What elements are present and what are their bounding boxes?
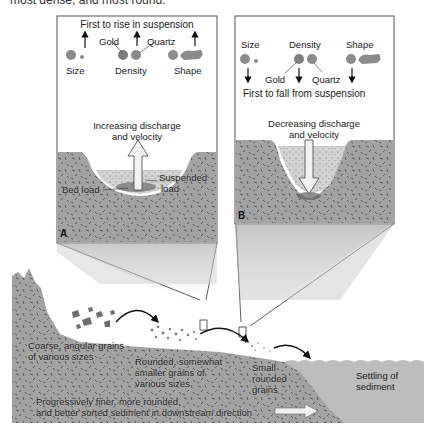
locator-box-a <box>200 320 207 330</box>
panel-a-size-label: Size <box>66 65 84 76</box>
coarse-grains-label-2: of various sizes <box>28 351 93 362</box>
small-grains-label-3: grains <box>252 384 278 395</box>
small-grains-label-2: rounded <box>252 373 287 384</box>
panel-a-letter: A <box>60 228 67 239</box>
panel-a-quartz-label: Quartz <box>147 36 176 47</box>
panel-b-gold-label: Gold <box>265 74 285 85</box>
panel-a-shape-label: Shape <box>174 65 201 76</box>
panel-b-letter: B <box>238 210 245 221</box>
trend-label-2: and better sorted sediment in downstream… <box>36 407 252 418</box>
panel-b-quartz-label: Quartz <box>312 74 341 85</box>
settling-label-1: Settling of <box>356 370 398 381</box>
bed-load-label: Bed load <box>62 184 100 195</box>
panel-b-density-label: Density <box>289 39 321 50</box>
rounded-grains-label-3: various sizes <box>135 378 190 389</box>
trend-label-1: Progressively finer, more rounded, <box>36 396 181 407</box>
rounded-grains-label-1: Rounded, somewhat <box>135 356 222 367</box>
panel-b-title: First to fall from suspension <box>243 88 365 99</box>
coarse-grains-label-1: Coarse, angular grains <box>28 340 124 351</box>
panel-b-flow-label-1: Decreasing discharge <box>254 118 374 129</box>
suspended-load-label-1: Suspended <box>159 172 207 183</box>
panel-a-flow-label-1: Increasing discharge <box>77 120 197 131</box>
panel-b-flow-label-2: and velocity <box>254 129 374 140</box>
settling-label-2: sediment <box>356 381 395 392</box>
small-grains-label-1: Small <box>252 362 276 373</box>
panel-a-gold-label: Gold <box>99 36 119 47</box>
panel-a-title: First to rise in suspension <box>57 19 217 30</box>
rounded-grains-label-2: smaller grains of <box>135 367 205 378</box>
suspended-load-label-2: load <box>161 183 179 194</box>
panel-b-size-label: Size <box>241 39 259 50</box>
panel-a-density-label: Density <box>115 65 147 76</box>
panel-b-shape-label: Shape <box>346 39 373 50</box>
panel-a-flow-label-2: and velocity <box>77 131 197 142</box>
